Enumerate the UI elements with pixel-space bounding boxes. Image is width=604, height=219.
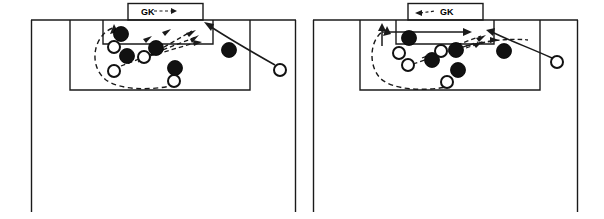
ball-run-solid-curve [204, 22, 275, 65]
filled-players-group [402, 31, 512, 78]
open-player [138, 51, 150, 63]
ball-run-solid-curve [486, 28, 552, 58]
filled-player [222, 43, 237, 58]
dashed-pass-arrowheads [473, 35, 499, 48]
filled-player [497, 44, 512, 59]
diagram-root: GK [0, 0, 604, 219]
open-player [402, 59, 414, 71]
open-player [108, 65, 120, 77]
open-players-group [108, 41, 286, 87]
open-player [393, 47, 405, 59]
field-lines [313, 4, 578, 213]
filled-player [114, 27, 129, 42]
goal-box [128, 4, 203, 21]
open-player [435, 45, 447, 57]
filled-players-group [114, 27, 237, 76]
open-player [108, 41, 120, 53]
filled-player [451, 63, 466, 78]
gk-arrowhead [171, 8, 177, 14]
field-lines [31, 4, 296, 213]
gk-label-left: GK [141, 7, 155, 17]
filled-player [449, 43, 464, 58]
filled-player [402, 31, 417, 46]
filled-player [149, 41, 164, 56]
gk-movement-arrow [154, 8, 177, 14]
left-diagram-panel: GK [0, 0, 302, 219]
horizontal-arrowhead [463, 28, 472, 36]
open-player [551, 56, 563, 68]
gk-movement-arrow [415, 10, 435, 16]
right-diagram-panel: GK [302, 0, 604, 219]
open-player [168, 75, 180, 87]
open-player [441, 76, 453, 88]
gk-arrowhead [415, 10, 422, 16]
filled-player [120, 49, 135, 64]
gk-label-right: GK [440, 7, 454, 17]
open-player [274, 64, 286, 76]
dashed-loop-run [95, 28, 175, 89]
filled-player [168, 61, 183, 76]
